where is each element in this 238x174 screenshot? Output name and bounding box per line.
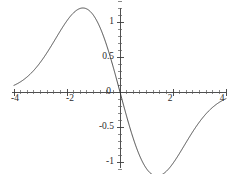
plot-canvas	[0, 0, 238, 174]
x-tick-label-neg2: -2	[66, 94, 74, 104]
x-tick-label-pos2: 2	[168, 94, 173, 104]
y-tick-label-neg05: -0.5	[99, 122, 114, 132]
x-tick-label-pos4: 4	[220, 94, 225, 104]
x-tick-label-neg4: -4	[11, 94, 19, 104]
y-tick-label-pos1: 1	[109, 17, 114, 27]
plot-figure: -4 -2 0 2 4 1 0.5 -0.5 -1	[0, 0, 238, 174]
y-tick-label-pos05: 0.5	[102, 52, 114, 62]
y-tick-label-neg1: -1	[106, 157, 114, 167]
origin-label: 0	[106, 87, 111, 97]
